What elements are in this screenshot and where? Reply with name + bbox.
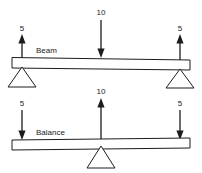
beam-right-support-triangle: [166, 69, 194, 88]
panel-balance: 10 5 5 Balance: [12, 87, 190, 168]
balance-right-load-arrow: [176, 110, 183, 140]
statics-diagram-figure: 10 5 5 Beam: [0, 0, 202, 173]
beam-right-reaction-value: 5: [178, 24, 183, 33]
panel-beam: 10 5 5 Beam: [8, 8, 194, 88]
beam-bar: [12, 58, 190, 71]
balance-left-load-value: 5: [20, 99, 25, 108]
beam-right-reaction-arrowhead-up: [176, 34, 183, 44]
balance-left-load-arrow: [18, 110, 25, 140]
balance-center-force-value: 10: [97, 87, 106, 96]
beam-center-force-value: 10: [97, 8, 106, 17]
diagram-canvas: 10 5 5 Beam: [0, 0, 202, 173]
beam-left-support-triangle: [8, 67, 36, 87]
balance-left-load-arrowhead-down: [18, 131, 25, 141]
balance-right-load-value: 5: [178, 99, 183, 108]
beam-center-force-arrow: [97, 20, 104, 58]
balance-panel-label: Balance: [36, 128, 65, 137]
beam-left-reaction-arrowhead-up: [18, 34, 25, 44]
balance-center-force-arrowhead-up: [97, 98, 104, 108]
beam-left-reaction-value: 5: [20, 24, 25, 33]
beam-panel-label: Beam: [36, 46, 57, 55]
beam-center-force-arrowhead-down: [97, 49, 104, 59]
